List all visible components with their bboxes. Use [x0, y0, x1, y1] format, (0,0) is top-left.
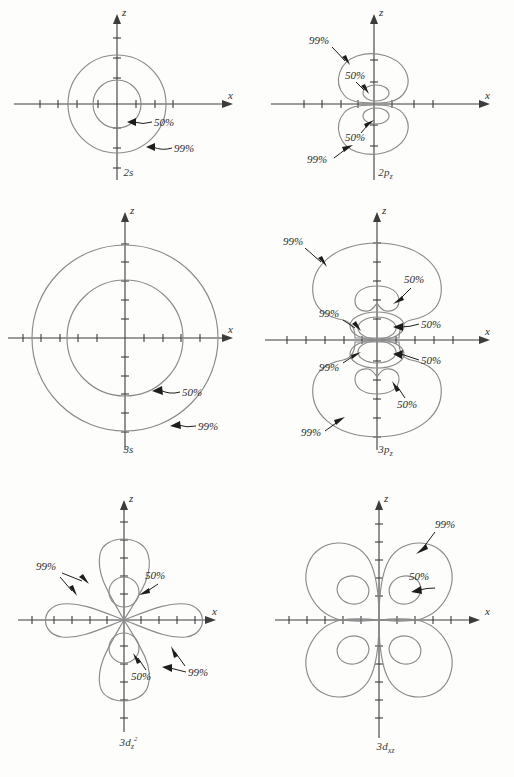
caption-3s-sub: s [129, 443, 133, 455]
contour-50-3dxz-lower-left [334, 632, 372, 667]
label-50-3pz-inner-upper: 50% [421, 318, 441, 330]
panel-3dxz: 99% 50% x z 3dxz [257, 470, 514, 777]
annotation-99-3dxz: 99% [416, 518, 455, 554]
contour-50-2pz-upper [363, 85, 389, 101]
contour-99-3dxz-upper-left [306, 543, 379, 621]
annotation-99-2pz-lower: 99% [307, 145, 353, 165]
axis-label-x-3pz: x [484, 325, 490, 337]
caption-2s: 2s [0, 166, 257, 178]
panel-3pz: 99% 50% 99% 50% 99% [257, 200, 514, 470]
contour-99-3dxz-lower-left [306, 619, 379, 697]
label-99-3pz-inner-upper: 99% [319, 307, 339, 319]
axes-2s [14, 14, 233, 180]
annotation-50-2pz-lower: 50% [345, 120, 374, 143]
panel-2s: 50% 99% x z 2s [0, 0, 257, 200]
label-50-3pz-inner-lower: 50% [421, 354, 441, 366]
caption-3dz2: 3dz2 [0, 735, 257, 751]
axis-label-z-2s: z [121, 6, 127, 18]
axis-label-z-2pz: z [378, 6, 384, 18]
panel-3s: 50% 99% x z 3s [0, 200, 257, 470]
annotation-99-3pz-upper: 99% [283, 235, 327, 267]
panel-2pz: 99% 50% 50% 99% x z 2pz [257, 0, 514, 200]
caption-3s: 3s [0, 443, 257, 455]
annotation-99-3dz2-upper-pair: 99% [36, 560, 89, 596]
axis-label-x-3s: x [227, 323, 233, 335]
axis-label-z-3pz: z [381, 204, 387, 216]
plot-3pz: 99% 50% 99% 50% 99% [257, 200, 514, 470]
label-50-2pz-upper: 50% [345, 69, 365, 81]
label-50-3pz-upper-crescent: 50% [404, 273, 424, 285]
annotation-50-2s: 50% [127, 116, 174, 128]
plot-3dz2: 99% 50% 50% 99% x z [0, 470, 257, 777]
label-50-3pz-lower-crescent: 50% [397, 398, 417, 410]
annotation-99-2s: 99% [146, 142, 194, 154]
caption-3dxz-sub2: xz [388, 746, 395, 755]
label-99-3pz-inner-lower: 99% [319, 361, 339, 373]
axis-label-z-3dxz: z [383, 492, 389, 504]
label-99-2s: 99% [174, 142, 194, 154]
annotation-50-3dz2-upper: 50% [139, 569, 165, 595]
axes-2pz [271, 14, 490, 180]
annotation-50-3s: 50% [152, 386, 202, 398]
label-50-3dz2-upper: 50% [145, 569, 165, 581]
label-50-2s: 50% [154, 116, 174, 128]
label-99-3dxz: 99% [435, 518, 455, 530]
annotation-99-3s: 99% [170, 420, 218, 432]
axis-label-x-3dz2: x [211, 605, 217, 617]
caption-3pz-sub2: z [390, 449, 393, 458]
orbital-figure-grid: 50% 99% x z 2s [0, 0, 514, 777]
label-99-3pz-lower: 99% [301, 426, 321, 438]
label-50-3dz2-lower: 50% [131, 670, 151, 682]
panel-3dz2: 99% 50% 50% 99% x z 3dz2 [0, 470, 257, 777]
plot-3dxz: 99% 50% x z [257, 470, 514, 777]
axes-3dxz [275, 500, 480, 738]
label-50-3s: 50% [182, 386, 202, 398]
plot-3s: 50% 99% x z [0, 200, 257, 470]
annotation-50-3pz-upper-crescent: 50% [393, 273, 424, 304]
axis-label-z-3s: z [129, 204, 135, 216]
caption-2s-sub: s [129, 166, 133, 178]
annotation-50-3dxz: 50% [409, 570, 435, 594]
axes-3s [8, 212, 233, 450]
axes-3pz [265, 212, 490, 450]
contour-99-3dxz-upper-right [379, 543, 452, 621]
axis-label-z-3dz2: z [128, 492, 134, 504]
annotation-50-2pz-upper: 50% [345, 69, 369, 94]
label-99-3dz2-lower: 99% [188, 666, 208, 678]
annotation-99-3dz2-lower: 99% [162, 646, 208, 678]
caption-3dz2-sub2: z [131, 742, 134, 751]
caption-3dxz: 3dxz [257, 740, 514, 755]
label-99-3s: 99% [198, 420, 218, 432]
label-50-2pz-lower: 50% [345, 131, 365, 143]
annotation-99-3pz-lower: 99% [301, 417, 345, 438]
caption-3pz: 3pz [257, 443, 514, 458]
label-99-2pz-lower: 99% [307, 153, 327, 165]
caption-2pz: 2pz [257, 166, 514, 181]
contour-50-3dxz-lower-right [386, 632, 424, 667]
annotation-50-3pz-inner-upper: 50% [393, 318, 441, 331]
contour-50-3dxz-upper-left [334, 572, 372, 607]
caption-2pz-sub2: z [390, 172, 393, 181]
axis-label-x-2pz: x [484, 89, 490, 101]
contour-99-3dxz-lower-right [379, 619, 452, 697]
contour-50-2pz-lower [363, 108, 389, 124]
axes-3dz2 [18, 500, 216, 732]
label-99-3pz-upper: 99% [283, 235, 303, 247]
annotation-50-3pz-inner-lower: 50% [393, 350, 441, 366]
label-99-2pz-upper: 99% [309, 34, 329, 46]
label-99-3dz2-upper: 99% [36, 560, 56, 572]
axis-label-x-3dxz: x [484, 605, 490, 617]
axis-label-x-2s: x [227, 89, 233, 101]
annotation-99-2pz-upper: 99% [309, 34, 350, 65]
annotation-50-3pz-lower-crescent: 50% [392, 381, 417, 410]
label-50-3dxz: 50% [409, 570, 429, 582]
caption-3dz2-sup: 2 [134, 735, 138, 742]
